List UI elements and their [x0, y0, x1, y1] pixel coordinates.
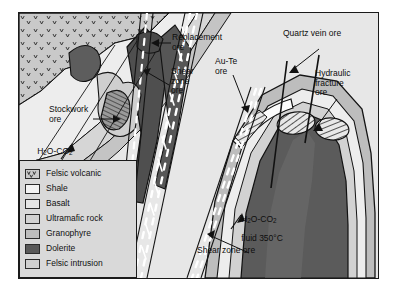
legend-label-felsic-intrusion: Felsic intrusion	[46, 259, 103, 268]
legend-swatch-dolerite	[25, 244, 40, 254]
legend-item-felsic-intrusion: Felsic intrusion	[25, 256, 136, 271]
label-quartz-vein-ore: Quartz vein ore	[283, 29, 341, 39]
legend-swatch-shale	[25, 184, 40, 194]
legend-swatch-granophyre	[25, 229, 40, 239]
legend-label-granophyre: Granophyre	[46, 229, 91, 238]
legend-label-ultramafic-rock: Ultramafic rock	[46, 214, 103, 223]
legend-swatch-felsic-intrusion	[25, 259, 40, 269]
legend-item-granophyre: Granophyre	[25, 226, 136, 241]
legend-swatch-basalt	[25, 199, 40, 209]
legend-item-shale: Shale	[25, 181, 136, 196]
label-au-te-ore: Au-Te ore	[215, 57, 237, 76]
legend-item-basalt: Basalt	[25, 196, 136, 211]
legend-swatch-felsic-volcanic	[25, 169, 40, 179]
legend-box: Felsic volcanic Shale Basalt Ultramafic …	[19, 160, 137, 278]
fluid-right-line2: fluid 350°C	[241, 233, 283, 243]
label-replacement-ore: Replacement ore	[172, 33, 222, 52]
legend-label-shale: Shale	[46, 184, 68, 193]
fluid-right-line1: H2O-CO2	[241, 214, 276, 224]
diagram-frame: Replacement ore Shear zone ore Au-Te ore…	[18, 12, 379, 279]
label-fluid-right: H2O-CO2 fluid 350°C	[227, 205, 283, 253]
legend-item-ultramafic-rock: Ultramafic rock	[25, 211, 136, 226]
legend-swatch-ultramafic-rock	[25, 214, 40, 224]
legend-label-basalt: Basalt	[46, 199, 70, 208]
legend-label-dolerite: Dolerite	[46, 244, 75, 253]
label-shear-zone-ore-upper: Shear zone ore	[171, 67, 194, 96]
legend-label-felsic-volcanic: Felsic volcanic	[46, 169, 101, 178]
label-hydraulic-fracture-ore: Hydraulic fracture ore	[315, 69, 350, 98]
label-stockwork-ore: Stockwork ore	[49, 105, 88, 124]
legend-item-felsic-volcanic: Felsic volcanic	[25, 166, 136, 181]
figure-root: Replacement ore Shear zone ore Au-Te ore…	[0, 0, 395, 290]
fluid-left-line1: H2O-CO2	[37, 146, 72, 156]
legend-item-dolerite: Dolerite	[25, 241, 136, 256]
